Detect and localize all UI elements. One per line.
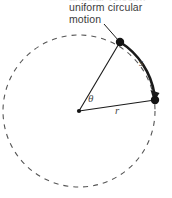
caption-block: uniform circular motion — [69, 2, 151, 25]
diagram-canvas — [0, 0, 172, 198]
arc-length-label: s — [139, 56, 143, 68]
particle-dot-icon-end — [151, 96, 159, 104]
center-point-icon — [77, 109, 81, 113]
leader-line-icon — [104, 24, 119, 41]
uniform-circular-motion-figure: angular velocity, uniform circular motio… — [0, 0, 172, 198]
radius-line-to-start-point — [79, 42, 120, 111]
arc-length-path — [120, 42, 155, 95]
caption-line-1: uniform circular — [69, 2, 151, 14]
angle-theta-label: θ — [88, 92, 93, 104]
caption-line-2: motion — [69, 14, 151, 26]
particle-dot-icon-start — [116, 38, 124, 46]
radius-label: r — [115, 104, 119, 116]
